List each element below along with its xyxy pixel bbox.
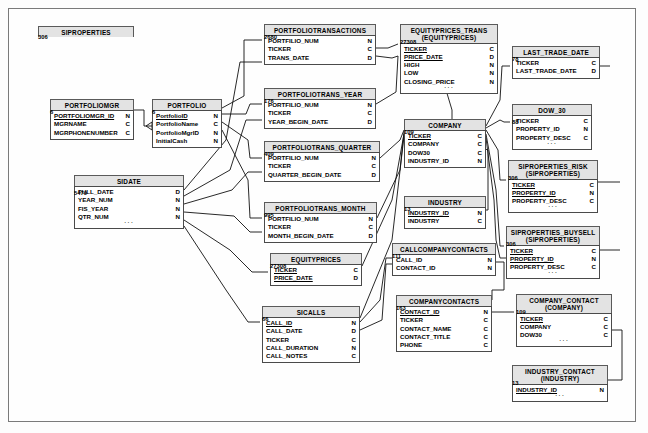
entity-header-siproperties: SIPROPERTIES: [38, 26, 134, 37]
attribute-type: C: [472, 132, 482, 140]
entity-portfoliomgr[interactable]: PORTFOLIOMGRPORTFOLIOMGR_IDNMGRNAMECMGRP…: [50, 99, 134, 140]
attribute-name: TICKER: [268, 162, 291, 170]
entity-portfoliotrans_quarter[interactable]: PORTFOLIOTRANS_QUARTERPORTFILIO_NUMNTICK…: [264, 141, 380, 182]
entity-siproperties_risk[interactable]: SIPROPERTIES_RISK(SIPROPERTIES)TICKERCPR…: [508, 160, 598, 213]
entity-body-siproperties_risk: TICKERCPROPERTY_IDNPROPERTY_DESCC···: [508, 179, 598, 214]
entity-company[interactable]: COMPANYTICKERCCOMPANYCDOW30CINDUSTRY_IDN: [404, 119, 486, 168]
attribute-name: TICKER: [268, 45, 291, 53]
entity-body-sicalls: CALL_IDNCALL_DATEDTICKERCCALL_DURATIONNC…: [262, 317, 360, 363]
entity-sicalls[interactable]: SICALLSCALL_IDNCALL_DATEDTICKERCCALL_DUR…: [262, 306, 360, 363]
attribute-row: PORTFILIO_NUMN: [265, 101, 375, 109]
attribute-type: C: [472, 140, 482, 148]
attribute-type: C: [578, 134, 588, 142]
entity-header-companycontacts: COMPANYCONTACTS: [396, 295, 492, 306]
attribute-row: TICKERC: [265, 162, 379, 170]
entity-title: EQUITYPRICES: [273, 256, 359, 263]
attribute-row: YEAR_BEGIN_DATED: [265, 118, 375, 126]
attribute-row: TICKERC: [405, 132, 485, 140]
attribute-type: C: [472, 149, 482, 157]
attribute-row: PORTFILIO_NUMN: [265, 215, 376, 223]
entity-equityprices_trans[interactable]: EQUITYPRICES_TRANS(EQUITYPRICES)TICKERCP…: [400, 24, 498, 94]
attribute-type: C: [578, 117, 588, 125]
attribute-name: INDUSTRY_ID: [408, 157, 449, 165]
entity-title: INDUSTRY_CONTACT: [515, 368, 605, 375]
entity-header-portfolio: PORTFOLIO: [152, 99, 222, 110]
entity-dow_30[interactable]: DOW_30TICKERCPROPERTY_IDNPROPERTY_DESCC·…: [512, 104, 592, 150]
entity-title: PORTFOLIOMGR: [53, 102, 131, 109]
entity-portfoliotrans_month[interactable]: PORTFOLIOTRANS_MONTHPORTFILIO_NUMNTICKER…: [264, 202, 377, 243]
entity-header-industry: INDUSTRY: [404, 196, 486, 207]
row-count-equityprices_trans: 27308: [400, 39, 416, 45]
entity-title: CALLCOMPANYCONTACTS: [395, 246, 493, 253]
entity-header-portfoliotransactions: PORTFOLIOTRANSACTIONS: [264, 24, 376, 35]
row-count-last_trade_date: 78: [512, 56, 518, 62]
entity-portfoliotransactions[interactable]: PORTFOLIOTRANSACTIONSPORTFILIO_NUMNTICKE…: [264, 24, 376, 65]
attribute-type: C: [478, 333, 488, 341]
attribute-type: C: [363, 223, 373, 231]
row-count-dow_30: 88: [512, 119, 518, 125]
entity-industry_contact[interactable]: INDUSTRY_CONTACT(INDUSTRY)INDUSTRY_IDN··…: [512, 365, 608, 402]
attribute-name: PHONE: [400, 341, 422, 349]
entity-body-portfoliomgr: PORTFOLIOMGR_IDNMGRNAMECMGRPHONENUMBERC: [50, 110, 134, 140]
entity-header-siproperties_buysell: SIPROPERTIES_BUYSELL(SIPROPERTIES): [506, 226, 600, 245]
attribute-type: N: [484, 69, 494, 77]
attribute-type: N: [366, 154, 376, 162]
row-count-callcompanycontacts: 111: [392, 253, 401, 259]
entity-body-equityprices_trans: TICKERCPRICE_DATEDHIGHNLOWNCLOSING_PRICE…: [400, 43, 498, 94]
attribute-row: TICKERC: [401, 45, 497, 53]
entity-portfoliotrans_year[interactable]: PORTFOLIOTRANS_YEARPORTFILIO_NUMNTICKERC…: [264, 88, 376, 129]
attribute-type: C: [366, 162, 376, 170]
attribute-name: CALL_ID: [266, 319, 292, 327]
attribute-type: N: [578, 125, 588, 133]
entity-companycontacts[interactable]: COMPANYCONTACTSCONTACT_IDNTICKERCCONTACT…: [396, 295, 492, 352]
row-count-portfoliotrans_year: 176: [264, 98, 274, 104]
entity-header-callcompanycontacts: CALLCOMPANYCONTACTS: [392, 243, 496, 254]
attribute-type: C: [346, 352, 356, 360]
entity-company_contact[interactable]: COMPANY_CONTACT(COMPANY)TICKERCCOMPANYCD…: [516, 294, 612, 347]
entity-header-siproperties_risk: SIPROPERTIES_RISK(SIPROPERTIES): [508, 160, 598, 179]
attribute-name: PortfolioMgrID: [156, 129, 199, 137]
entity-last_trade_date[interactable]: LAST_TRADE_DATETICKERCLAST_TRADE_DATED: [512, 46, 600, 79]
entity-body-portfoliotrans_quarter: PORTFILIO_NUMNTICKERCQUARTER_BEGIN_DATED: [264, 152, 380, 182]
entity-header-portfoliotrans_quarter: PORTFOLIOTRANS_QUARTER: [264, 141, 380, 152]
entity-title: PORTFOLIOTRANS_QUARTER: [267, 144, 377, 151]
entity-title: SIPROPERTIES: [41, 29, 131, 36]
entity-siproperties_buysell[interactable]: SIPROPERTIES_BUYSELL(SIPROPERTIES)TICKER…: [506, 226, 600, 279]
entity-sidate[interactable]: SIDATEFULL_DATEDYEAR_NUMNFIS_YEARNQTR_NU…: [74, 175, 184, 229]
attribute-name: LOW: [404, 69, 418, 77]
attribute-type: C: [120, 120, 130, 128]
entity-siproperties[interactable]: SIPROPERTIES: [38, 26, 134, 40]
attribute-name: PRICE_DATE: [404, 53, 443, 61]
attribute-row: PortfolioNameC: [153, 120, 221, 128]
attribute-name: YEAR_NUM: [78, 196, 113, 204]
attribute-type: N: [482, 256, 492, 264]
row-count-siproperties: 306: [38, 34, 48, 40]
entity-portfolio[interactable]: PORTFOLIOPortfolioIDNPortfolioNameCPortf…: [152, 99, 222, 148]
entity-equityprices[interactable]: EQUITYPRICESTICKERCPRICE_DATED: [270, 253, 362, 286]
attribute-name: CONTACT_TITLE: [400, 333, 450, 341]
entity-title: SIPROPERTIES_RISK: [511, 163, 595, 170]
attribute-name: MGRPHONENUMBER: [54, 129, 118, 137]
attribute-name: CONTACT_NAME: [400, 325, 451, 333]
entity-callcompanycontacts[interactable]: CALLCOMPANYCONTACTSCALL_IDNCONTACT_IDN: [392, 243, 496, 276]
entity-subtitle: (INDUSTRY): [515, 375, 605, 382]
attribute-row: LOWN: [401, 69, 497, 77]
attribute-type: N: [208, 129, 218, 137]
attribute-type: C: [120, 129, 130, 137]
attribute-type: N: [346, 319, 356, 327]
attribute-type: N: [478, 308, 488, 316]
attribute-type: C: [598, 315, 608, 323]
attribute-name: PORTFOLIOMGR_ID: [54, 112, 114, 120]
entity-body-last_trade_date: TICKERCLAST_TRADE_DATED: [512, 57, 600, 78]
attribute-row: CALL_DATED: [263, 327, 359, 335]
attribute-name: TICKER: [400, 316, 423, 324]
attribute-ellipsis: ···: [401, 86, 497, 91]
attribute-row: TICKERC: [513, 59, 599, 67]
entity-title: COMPANY_CONTACT: [519, 297, 609, 304]
attribute-row: YEAR_NUMN: [75, 196, 183, 204]
attribute-type: C: [598, 331, 608, 339]
attribute-name: PortfolioID: [156, 112, 188, 120]
entity-header-industry_contact: INDUSTRY_CONTACT(INDUSTRY): [512, 365, 608, 384]
attribute-name: DOW30: [520, 331, 542, 339]
entity-industry[interactable]: INDUSTRYINDUSTRY_IDNINDUSTRYC: [404, 196, 486, 229]
